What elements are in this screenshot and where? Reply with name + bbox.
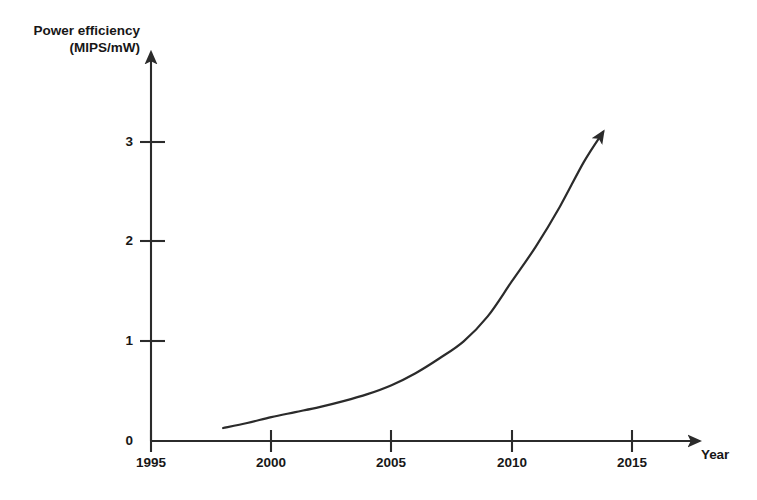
- chart-figure: Power efficiency (MIPS/mW) Year 0 1 2 3 …: [0, 0, 757, 500]
- plot-area: [0, 0, 757, 500]
- data-series-curve: [223, 132, 603, 428]
